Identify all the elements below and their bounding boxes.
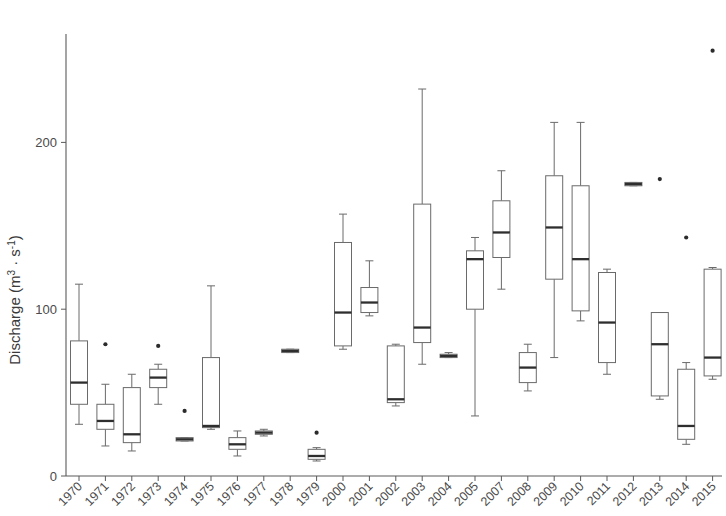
box-1971	[97, 404, 114, 429]
y-axis-title-text: Discharge (m3 · s-1)	[6, 235, 23, 365]
x-axis: 1970197119721973197419751976197719781979…	[56, 476, 722, 509]
boxplot-2001	[361, 261, 378, 316]
boxplot-1978	[282, 349, 299, 352]
y-axis: 0100200	[35, 34, 66, 484]
box-2015	[704, 269, 721, 376]
boxplot-2000	[335, 214, 352, 349]
boxplot-2010	[572, 122, 589, 320]
x-tick-label-2014: 2014	[663, 479, 693, 509]
x-tick-label-1979: 1979	[293, 479, 323, 509]
box-2014	[678, 369, 695, 439]
box-2000	[335, 242, 352, 345]
x-tick-label-2013: 2013	[636, 479, 666, 509]
boxplot-1976	[229, 431, 246, 456]
x-tick-label-1974: 1974	[161, 479, 191, 509]
box-2011	[599, 273, 616, 363]
x-tick-label-1976: 1976	[214, 479, 244, 509]
x-tick-label-2015: 2015	[689, 479, 719, 509]
boxplot-1970	[71, 284, 88, 424]
x-tick-label-1977: 1977	[240, 479, 270, 509]
x-tick-label-2008: 2008	[504, 479, 534, 509]
boxplot-2015	[704, 49, 721, 380]
boxplot-1971	[97, 342, 114, 446]
boxplot-chart: 0100200 19701971197219731974197519761977…	[0, 0, 726, 516]
boxplot-2012	[625, 182, 642, 185]
box-2013	[651, 313, 668, 396]
boxplot-1977	[255, 429, 272, 436]
boxplot-1975	[203, 286, 220, 429]
x-tick-label-2007: 2007	[478, 479, 508, 509]
x-tick-label-2010: 2010	[557, 479, 587, 509]
boxplot-2007	[493, 171, 510, 289]
boxplot-2008	[519, 344, 536, 391]
boxplot-2014	[678, 235, 695, 444]
boxplot-1972	[123, 374, 140, 451]
outlier-1974-0	[183, 409, 187, 413]
outlier-1971-0	[103, 342, 107, 346]
box-2007	[493, 201, 510, 258]
box-2010	[572, 186, 589, 311]
box-2003	[414, 204, 431, 342]
outlier-2015-0	[711, 49, 715, 53]
boxplot-1974	[176, 409, 193, 441]
y-axis-title: Discharge (m3 · s-1)	[6, 235, 23, 365]
x-tick-label-1975: 1975	[188, 479, 218, 509]
box-1979	[308, 449, 325, 459]
x-tick-label-1972: 1972	[108, 479, 138, 509]
outlier-1973-0	[156, 344, 160, 348]
chart-canvas: 0100200 19701971197219731974197519761977…	[0, 0, 726, 516]
boxplot-2004	[440, 353, 457, 358]
boxplot-2013	[651, 177, 668, 399]
boxplot-2009	[546, 122, 563, 357]
x-tick-label-2003: 2003	[399, 479, 429, 509]
x-tick-label-1973: 1973	[135, 479, 165, 509]
boxplot-2003	[414, 89, 431, 364]
outlier-2013-0	[658, 177, 662, 181]
x-tick-label-2004: 2004	[425, 479, 455, 509]
x-tick-label-1971: 1971	[82, 479, 112, 509]
x-tick-label-1970: 1970	[56, 479, 86, 509]
x-tick-label-2005: 2005	[452, 479, 482, 509]
boxplot-1973	[150, 344, 167, 404]
x-tick-label-2011: 2011	[584, 479, 613, 508]
boxplot-2005	[467, 237, 484, 415]
x-tick-label-2000: 2000	[320, 479, 350, 509]
y-tick-label-100: 100	[35, 302, 57, 317]
box-1975	[203, 358, 220, 428]
x-tick-label-2009: 2009	[531, 479, 561, 509]
x-tick-label-1978: 1978	[267, 479, 297, 509]
box-2002	[387, 346, 404, 403]
x-tick-label-2001: 2001	[346, 479, 376, 509]
box-series	[71, 49, 722, 461]
x-tick-label-2012: 2012	[610, 479, 640, 509]
box-1970	[71, 341, 88, 404]
y-tick-label-0: 0	[50, 469, 57, 484]
boxplot-1979	[308, 431, 325, 461]
outlier-1979-0	[315, 431, 319, 435]
x-tick-label-2002: 2002	[372, 479, 402, 509]
y-tick-label-200: 200	[35, 135, 57, 150]
box-2001	[361, 288, 378, 313]
outlier-2014-0	[684, 235, 688, 239]
boxplot-2011	[599, 269, 616, 374]
boxplot-2002	[387, 344, 404, 406]
